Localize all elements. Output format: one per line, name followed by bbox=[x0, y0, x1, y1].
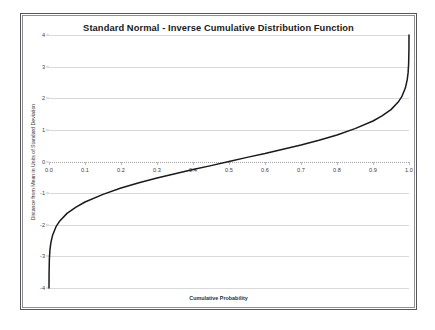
x-tick-mark bbox=[409, 162, 410, 165]
y-tick-label: -2 bbox=[40, 222, 45, 228]
y-tick-label: -4 bbox=[40, 285, 45, 291]
gridline-horizontal bbox=[49, 288, 409, 289]
chart-title: Standard Normal - Inverse Cumulative Dis… bbox=[21, 23, 416, 33]
chart-image-frame: Standard Normal - Inverse Cumulative Dis… bbox=[20, 13, 417, 310]
plot-area: 43210-1-2-3-4 0.00.10.20.30.40.50.60.70.… bbox=[49, 35, 409, 288]
y-tick-label: 0 bbox=[42, 159, 45, 165]
x-axis-title: Cumulative Probability bbox=[21, 295, 416, 301]
y-tick-label: 3 bbox=[42, 64, 45, 70]
y-tick-label: 1 bbox=[42, 127, 45, 133]
y-axis-title: Distance from Mean in Units of Standard … bbox=[30, 103, 36, 220]
curve-path bbox=[49, 35, 409, 288]
y-tick-label: 4 bbox=[42, 32, 45, 38]
series-curve-inverse-normal-cdf bbox=[49, 35, 409, 288]
screenshot-root: Standard Normal - Inverse Cumulative Dis… bbox=[0, 0, 435, 330]
y-tick-label: -3 bbox=[40, 253, 45, 259]
chart-canvas: Standard Normal - Inverse Cumulative Dis… bbox=[21, 14, 416, 309]
y-tick-label: 2 bbox=[42, 95, 45, 101]
y-tick-label: -1 bbox=[40, 190, 45, 196]
